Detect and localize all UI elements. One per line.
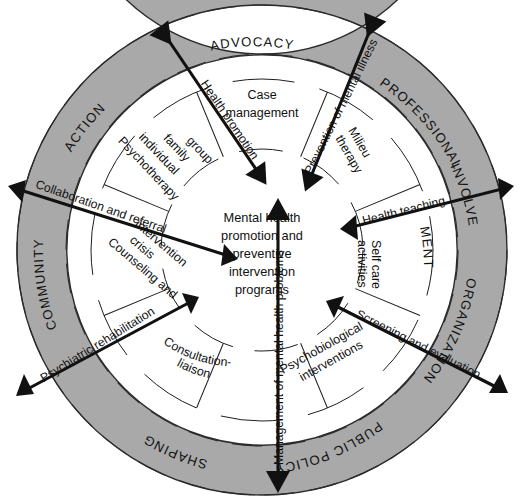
svg-text:activities: activities bbox=[355, 240, 369, 288]
inner-label-self-care-activities: Self care activities bbox=[355, 240, 383, 289]
center-line-2: promotion and bbox=[221, 228, 303, 243]
center-line-5: programs bbox=[235, 282, 289, 297]
center-line-1: Mental health bbox=[224, 210, 301, 225]
diagram-canvas: ADVOCACY PROFESSIONAL INVOLVE MENT ORGAN… bbox=[0, 0, 525, 500]
outer-label-advocacy: ADVOCACY bbox=[209, 34, 295, 53]
mental-health-wheel-diagram: ADVOCACY PROFESSIONAL INVOLVE MENT ORGAN… bbox=[0, 0, 525, 500]
svg-text:Case: Case bbox=[247, 88, 276, 102]
center-line-3: preventive bbox=[232, 246, 291, 261]
center-line-4: intervention bbox=[229, 264, 295, 279]
svg-text:Self care: Self care bbox=[369, 240, 383, 289]
